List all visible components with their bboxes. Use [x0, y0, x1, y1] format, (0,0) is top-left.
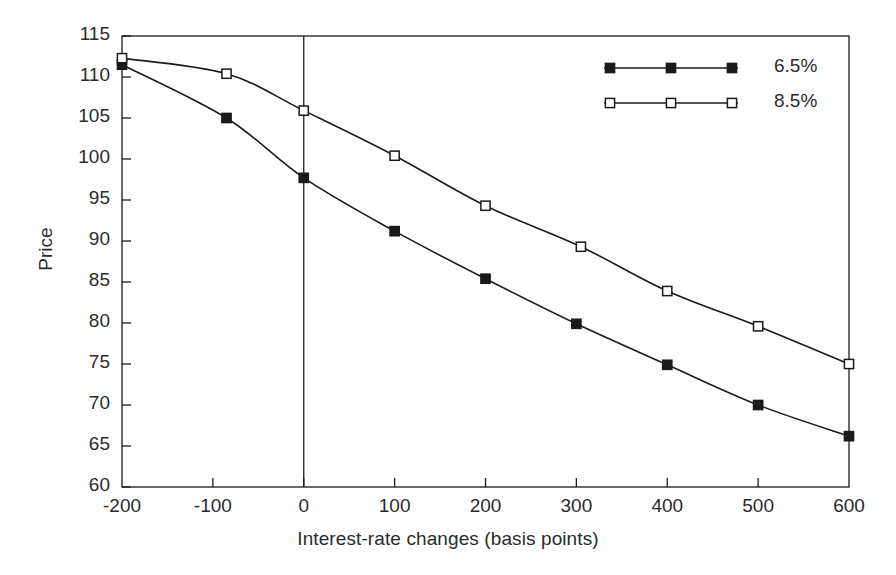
x-tick-label: 300 — [536, 495, 616, 517]
y-tick-label: 80 — [40, 310, 110, 332]
x-tick-label: 0 — [264, 495, 344, 517]
x-tick-label: 500 — [718, 495, 798, 517]
y-tick-label: 115 — [40, 23, 110, 45]
y-tick-label: 75 — [40, 351, 110, 373]
x-tick-label: 100 — [355, 495, 435, 517]
y-tick-label: 110 — [40, 64, 110, 86]
x-tick-label: 200 — [446, 495, 526, 517]
x-tick-label: -100 — [173, 495, 253, 517]
legend-label-8-5: 8.5% — [774, 90, 817, 112]
legend-label-6-5: 6.5% — [774, 55, 817, 77]
x-tick-label: 600 — [809, 495, 889, 517]
x-tick-label: -200 — [82, 495, 162, 517]
y-tick-label: 100 — [40, 146, 110, 168]
x-tick-label: 400 — [627, 495, 707, 517]
chart-plot-area — [0, 0, 896, 575]
plot-frame — [122, 36, 849, 487]
y-axis-title: Price — [35, 189, 57, 309]
y-tick-label: 60 — [40, 474, 110, 496]
price-vs-interest-rate-chart: 6065707580859095100105110115 -200-100010… — [0, 0, 896, 575]
y-tick-label: 105 — [40, 105, 110, 127]
y-tick-label: 70 — [40, 392, 110, 414]
x-axis-title: Interest-rate changes (basis points) — [0, 528, 896, 550]
legend-marks — [604, 63, 738, 107]
data-series-group — [117, 54, 853, 441]
y-tick-label: 65 — [40, 433, 110, 455]
